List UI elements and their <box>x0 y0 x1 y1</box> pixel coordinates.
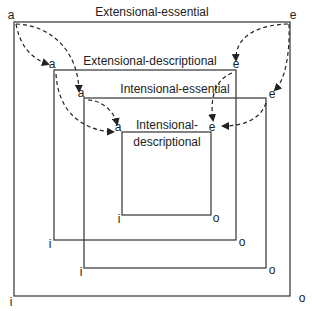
corner-i: i <box>118 212 121 226</box>
corner-e: e <box>290 8 297 22</box>
corner-a: a <box>115 120 122 134</box>
arrows-a-side <box>16 24 117 132</box>
corner-o: o <box>213 211 220 225</box>
arrows-e-side <box>212 24 289 126</box>
box-title: Intensional-essential <box>120 82 229 96</box>
corner-i: i <box>80 265 83 279</box>
box-title: Extensional-descriptional <box>83 54 216 68</box>
corner-a: a <box>8 8 15 22</box>
corner-a: a <box>49 57 56 71</box>
square-of-opposition-diagram: Extensional-essential a e i o Extensiona… <box>0 0 312 311</box>
box-intensional-descriptional: Intensional- descriptional a e i o <box>115 118 220 226</box>
corner-e: e <box>269 87 276 101</box>
arrow-e-outer-to-intess <box>275 24 289 90</box>
arrow-e-intess-to-intdesc <box>223 103 266 126</box>
arrow-a-outer-to-intess <box>16 24 79 91</box>
box-title: Extensional-essential <box>95 5 208 19</box>
corner-o: o <box>299 291 306 305</box>
arrow-a-intess-to-intdesc <box>88 100 117 124</box>
corner-o: o <box>269 263 276 277</box>
arrow-e-extdesc-to-intdesc <box>212 73 232 120</box>
corner-i: i <box>10 295 13 309</box>
box-intensional-essential: Intensional-essential a e i o <box>78 82 276 279</box>
box-title-line1: Intensional- <box>136 118 198 132</box>
box-title-line2: descriptional <box>133 135 200 149</box>
corner-e: e <box>209 120 216 134</box>
arrow-a-outer-to-extdesc <box>16 24 48 64</box>
arrow-e-outer-to-extdesc <box>236 24 288 60</box>
corner-i: i <box>49 237 52 251</box>
box-extensional-essential: Extensional-essential a e i o <box>8 5 306 309</box>
corner-o: o <box>239 235 246 249</box>
